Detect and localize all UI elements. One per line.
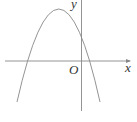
parabola-curve (17, 9, 100, 102)
graph: y O x (0, 0, 137, 122)
x-axis-label: x (124, 60, 131, 75)
y-axis-label: y (69, 0, 77, 11)
origin-label: O (69, 62, 79, 77)
